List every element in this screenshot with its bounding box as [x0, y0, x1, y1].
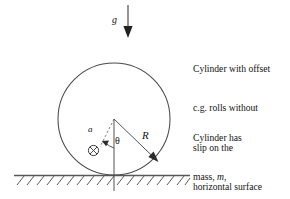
mechanics-diagram: g a R θ Cylinder with offset c.g. rolls … [0, 0, 290, 199]
gravity-label: g [112, 14, 117, 25]
offset-label: a [88, 124, 93, 134]
radius-arrow-R [114, 119, 159, 162]
ground-hatching [17, 176, 190, 185]
mass-symbol: m [217, 171, 224, 182]
gravity-arrow [123, 5, 132, 38]
theta-label: θ [115, 135, 120, 146]
mass-text: mass, [193, 171, 217, 182]
center-of-gravity-marker [88, 145, 98, 155]
mass-comma: , [224, 171, 226, 182]
note-properties: Cylinder has mass, m, c.g. moment of ine… [193, 105, 251, 199]
note-properties-line-2: mass, m, [193, 170, 251, 183]
radius-label: R [142, 129, 149, 141]
theta-angle-arc [102, 141, 114, 149]
note-properties-line-1: Cylinder has [193, 131, 251, 144]
note-rolling-line-1: Cylinder with offset [193, 62, 270, 75]
